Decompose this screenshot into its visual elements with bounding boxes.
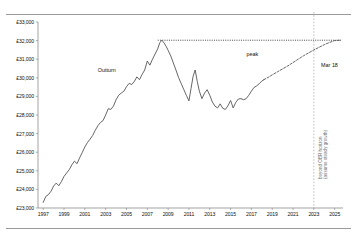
y-tick-label: £29,000 [0,93,34,99]
y-tick-label: £26,000 [0,149,34,155]
line-chart-canvas [0,0,357,237]
chart-series-lines [43,40,340,202]
y-tick-label: £27,000 [0,131,34,137]
annotation-outturn: Outturn [98,67,116,73]
x-tick-label: 2025 [322,211,348,217]
annotation-beyond-obr-horizon: beyond OBR horizon (assume steady growth… [318,130,329,179]
y-tick-label: £33,000 [0,19,34,25]
y-tick-label: £32,000 [0,38,34,44]
y-tick-label: £23,000 [0,205,34,211]
beyond-obr-line2: (assume steady growth) [323,130,328,179]
chart-figure: £33,000£32,000£31,000£30,000£29,000£28,0… [0,0,357,237]
y-tick-label: £24,000 [0,186,34,192]
y-tick-label: £28,000 [0,112,34,118]
annotation-mar-18: Mar 18 [321,62,338,68]
y-tick-label: £25,000 [0,168,34,174]
chart-axes [36,22,343,210]
y-tick-label: £31,000 [0,56,34,62]
y-tick-label: £30,000 [0,75,34,81]
annotation-peak: peak [246,51,258,57]
